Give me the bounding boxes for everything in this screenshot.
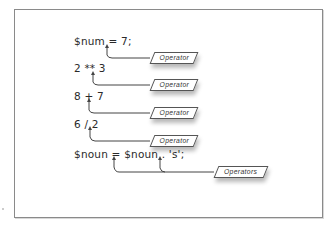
callout-divide: Operator bbox=[152, 135, 196, 147]
callout-concat: Operators bbox=[216, 166, 266, 178]
callout-add: Operator bbox=[152, 107, 196, 119]
callout-assign: Operator bbox=[152, 52, 196, 64]
callout-power: Operator bbox=[152, 79, 196, 91]
